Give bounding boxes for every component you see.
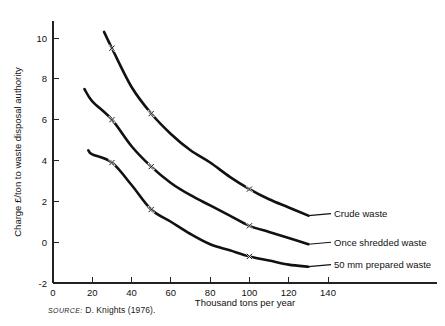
x-tick-label: 0 xyxy=(50,287,55,298)
leader-line xyxy=(308,265,331,267)
source-note: SOURCE: D. Knights (1976). xyxy=(48,305,155,315)
y-tick-label: 10 xyxy=(36,33,47,44)
x-axis-title: Thousand tons per year xyxy=(195,297,295,308)
series-labels: Crude wasteOnce shredded waste50 mm prep… xyxy=(334,208,431,270)
y-tick-label: -2 xyxy=(39,278,47,289)
series-label-leaders xyxy=(308,214,331,267)
source-citation: D. Knights (1976). xyxy=(85,305,155,315)
data-curves xyxy=(84,32,308,267)
x-tick-label: 60 xyxy=(166,287,177,298)
x-tick-label: 40 xyxy=(126,287,137,298)
chart-figure: -20246810 020406080100120140 Crude waste… xyxy=(0,0,445,326)
y-axis-title: Charge £/ton to waste disposal authority xyxy=(12,67,23,237)
series-label-2: 50 mm prepared waste xyxy=(334,259,431,270)
y-tick-label: 0 xyxy=(42,237,47,248)
waste-disposal-charge-chart: -20246810 020406080100120140 Crude waste… xyxy=(0,0,445,326)
leader-line xyxy=(308,242,331,244)
y-axis-ticks: -20246810 xyxy=(36,33,59,289)
x-tick-label: 20 xyxy=(87,287,98,298)
source-label: SOURCE: xyxy=(48,307,83,314)
curve-50-mm-prepared-waste xyxy=(88,150,308,266)
x-tick-label: 140 xyxy=(320,287,336,298)
y-tick-label: 2 xyxy=(42,196,47,207)
leader-line xyxy=(308,214,331,216)
y-tick-label: 8 xyxy=(42,73,47,84)
x-axis-ticks: 020406080100120140 xyxy=(50,277,336,298)
series-label-0: Crude waste xyxy=(334,208,387,219)
y-tick-label: 4 xyxy=(42,155,47,166)
y-tick-label: 6 xyxy=(42,114,47,125)
series-label-1: Once shredded waste xyxy=(334,237,426,248)
